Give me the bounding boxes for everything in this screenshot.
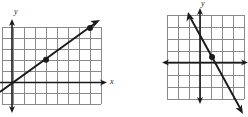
left-graph-y-axis-label: y	[14, 8, 18, 16]
right-graph-point-1	[209, 54, 215, 60]
left-graph-point-1	[43, 57, 49, 63]
two-graph-figure	[0, 0, 248, 117]
right-graph-points	[209, 54, 215, 60]
right-graph-y-axis-label: y	[201, 0, 205, 8]
left-graph-point-2	[87, 25, 93, 31]
left-graph-x-axis-label: x	[110, 78, 114, 86]
